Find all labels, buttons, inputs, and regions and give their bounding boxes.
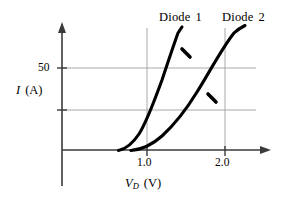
x-axis-subscript: D <box>133 181 139 191</box>
chart-canvas <box>0 0 282 203</box>
y-axis-arrowhead <box>58 22 66 33</box>
x-axis-symbol: V <box>125 176 133 190</box>
x-axis-unit: (V) <box>144 176 161 190</box>
series-label-diode-2: Diode2 <box>222 11 265 24</box>
y-axis-title: I(A) <box>16 84 43 97</box>
series-label-diode-1-word: Diode <box>159 10 191 24</box>
diode-iv-characteristic-figure: Diode1 Diode2 50 I(A) 1.0 2.0 VD(V) <box>0 0 282 203</box>
x-axis-tick-label-2: 2.0 <box>215 157 229 169</box>
y-axis-unit: (A) <box>25 83 42 97</box>
curve-marker-diode-2 <box>208 94 216 102</box>
series-label-diode-1: Diode1 <box>159 11 202 24</box>
x-axis-arrowhead <box>260 146 271 154</box>
y-axis-tick-label-50: 50 <box>38 62 50 74</box>
series-label-diode-2-number: 2 <box>259 10 265 24</box>
x-axis-tick-label-1: 1.0 <box>137 157 151 169</box>
y-axis-symbol: I <box>16 83 20 97</box>
curve-marker-diode-1 <box>182 49 190 57</box>
x-axis-title: VD(V) <box>125 177 161 191</box>
series-label-diode-1-number: 1 <box>196 10 202 24</box>
curve-diode-1 <box>119 27 183 151</box>
series-label-diode-2-word: Diode <box>222 10 254 24</box>
curve-diode-2 <box>131 26 245 151</box>
